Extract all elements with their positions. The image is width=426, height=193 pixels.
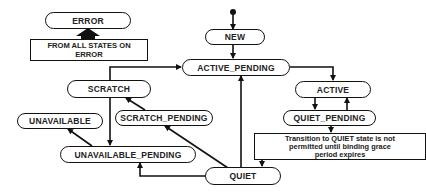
note-line: ERROR [31,50,147,59]
state-label: SCRATCH [88,84,130,94]
state-label: ACTIVE_PENDING [197,63,274,73]
state-label: SCRATCH_PENDING [120,113,207,123]
state-unavailable-pending: UNAVAILABLE_PENDING [60,146,196,163]
state-active-pending: ACTIVE_PENDING [182,59,290,76]
start-dot [230,9,236,15]
state-label: QUIET [230,171,257,181]
state-label: UNAVAILABLE [29,116,91,126]
error-note: FROM ALL STATES ON ERROR [30,39,148,61]
state-label: ACTIVE [317,85,349,95]
state-label: NEW [225,32,245,42]
state-error: ERROR [45,12,131,29]
state-label: QUIET_PENDING [293,113,365,123]
note-line: period expires [255,151,425,159]
state-scratch-pending: SCRATCH_PENDING [115,110,213,126]
state-quiet-pending: QUIET_PENDING [283,110,376,126]
state-label: ERROR [72,16,104,26]
state-quiet: QUIET [205,167,281,185]
state-active: ACTIVE [295,81,371,98]
note-line: FROM ALL STATES ON [31,41,147,50]
state-new: NEW [205,29,265,45]
state-unavailable: UNAVAILABLE [17,113,103,129]
state-label: UNAVAILABLE_PENDING [75,150,182,160]
state-scratch: SCRATCH [67,80,151,98]
quiet-note: Transition to QUIET state is not permitt… [254,133,426,160]
